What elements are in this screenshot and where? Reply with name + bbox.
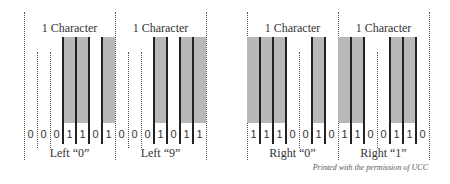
character-boundary xyxy=(429,12,430,160)
bar-module xyxy=(102,37,115,123)
module-bit: 0 xyxy=(416,128,429,140)
character-label: Left “9” xyxy=(115,146,206,161)
character-title: 1 Character xyxy=(115,21,206,36)
module-bit: 1 xyxy=(102,128,115,140)
module-bit: 0 xyxy=(364,128,377,140)
module-bit: 0 xyxy=(128,128,141,140)
permission-caption: Printed with the permission of UCC xyxy=(313,163,428,172)
character-label: Right “0” xyxy=(247,146,338,161)
module-bit: 0 xyxy=(37,128,50,140)
bar-module xyxy=(193,37,206,123)
module-bit: 0 xyxy=(24,128,37,140)
character-label: Right “1” xyxy=(338,146,429,161)
character-title: 1 Character xyxy=(24,21,115,36)
character-title: 1 Character xyxy=(338,21,429,36)
character-label: Left “0” xyxy=(24,146,115,161)
module-bit: 1 xyxy=(193,128,206,140)
module-bit: 0 xyxy=(325,128,338,140)
barcode-encoding-diagram: 1 Character0001101Left “0”1 Character000… xyxy=(0,0,450,184)
character-title: 1 Character xyxy=(247,21,338,36)
character-boundary xyxy=(206,12,207,160)
module-bit: 0 xyxy=(115,128,128,140)
module-bit: 0 xyxy=(286,128,299,140)
